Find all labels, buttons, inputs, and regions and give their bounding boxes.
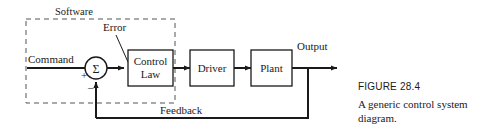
- figure-caption-text: A generic control system diagram.: [358, 97, 496, 125]
- figure-caption: FIGURE 28.4 A generic control system dia…: [358, 80, 496, 125]
- control-law-label-line2: Law: [141, 68, 161, 80]
- driver-label: Driver: [198, 62, 227, 74]
- error-leader-line: [116, 35, 128, 62]
- error-label: Error: [103, 21, 127, 33]
- control-law-label-line1: Control: [134, 55, 168, 67]
- plus-sign-label: +: [81, 69, 87, 81]
- software-boundary-label: Software: [55, 6, 93, 17]
- command-label: Command: [28, 53, 74, 65]
- output-label: Output: [297, 40, 328, 52]
- minus-sign-label: –: [87, 81, 94, 93]
- summing-junction-symbol: Σ: [93, 62, 100, 76]
- feedback-label: Feedback: [160, 104, 203, 116]
- plant-label: Plant: [260, 62, 283, 74]
- figure-caption-title: FIGURE 28.4: [358, 80, 496, 93]
- figure-container: Software Command Σ + – Error Control Law…: [0, 0, 496, 126]
